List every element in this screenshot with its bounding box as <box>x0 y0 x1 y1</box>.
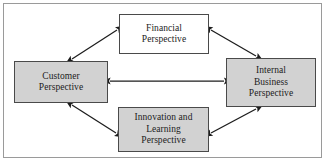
connector-innovation-internal <box>211 109 256 133</box>
node-internal-business-perspective[interactable]: InternalBusinessPerspective <box>226 58 316 107</box>
node-innovation-learning-label: Innovation andLearningPerspective <box>133 112 195 147</box>
node-customer-label: CustomerPerspective <box>37 71 85 94</box>
node-customer-perspective[interactable]: CustomerPerspective <box>14 61 108 103</box>
diagram-canvas: FinancialPerspective CustomerPerspective… <box>0 0 328 163</box>
connector-customer-innovation <box>72 105 116 133</box>
node-financial-perspective[interactable]: FinancialPerspective <box>119 14 209 54</box>
node-innovation-learning-perspective[interactable]: Innovation andLearningPerspective <box>118 107 209 152</box>
node-financial-label: FinancialPerspective <box>140 23 188 46</box>
connector-financial-internal <box>211 30 256 56</box>
connector-customer-financial <box>72 30 117 59</box>
node-internal-business-label: InternalBusinessPerspective <box>247 65 295 100</box>
